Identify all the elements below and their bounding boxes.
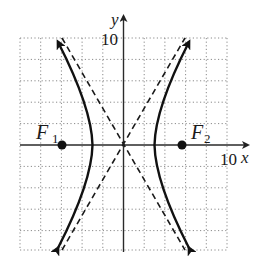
y-tick-label: 10 (101, 30, 118, 49)
focus-f2-label: F (190, 121, 204, 143)
hyperbola-diagram: y 10 10 x F 1 F 2 (0, 0, 264, 256)
focus-f1-point (58, 141, 67, 150)
focus-f2-point (178, 141, 187, 150)
focus-f2-subscript: 2 (204, 131, 211, 146)
focus-f1-subscript: 1 (52, 131, 59, 146)
focus-f1-label: F (35, 121, 49, 143)
x-tick-label: 10 (220, 150, 237, 169)
y-axis-label: y (109, 10, 119, 29)
x-axis-label: x (240, 148, 249, 167)
